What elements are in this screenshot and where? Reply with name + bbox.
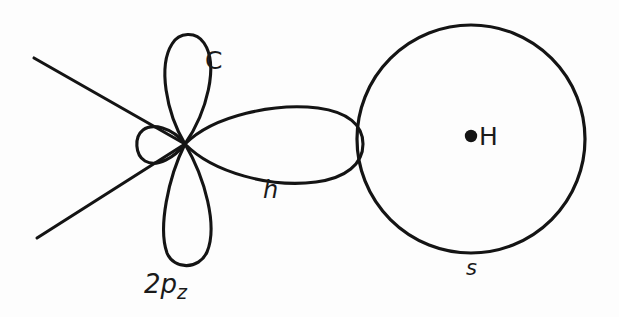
orbital-overlap-drawing [0, 0, 619, 317]
hybrid-orbital-label: h [263, 178, 278, 202]
carbon-label: C [205, 48, 222, 73]
bond-line-upper-left [34, 58, 185, 144]
hydrogen-atom-label: H [479, 124, 498, 149]
orbital-diagram-figure: C h H s 2pz [0, 0, 619, 317]
p-orbital-label-subscript: z [177, 281, 187, 303]
hydrogen-s-orbital-label: s [466, 258, 477, 279]
p-orbital-label-main: 2p [144, 269, 177, 299]
hybrid-orbital-front-lobe [185, 107, 363, 183]
p-orbital-upper-lobe [165, 34, 211, 144]
hydrogen-nucleus-dot [465, 130, 477, 142]
p-orbital-lower-lobe [164, 144, 211, 266]
p-orbital-label: 2pz [144, 271, 187, 302]
